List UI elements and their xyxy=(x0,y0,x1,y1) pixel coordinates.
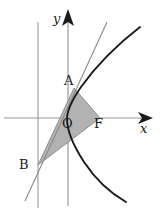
point-label-a: A xyxy=(64,74,73,87)
y-axis-label: y xyxy=(53,12,60,25)
geometry-figure: y x A B O F xyxy=(0,0,165,214)
geometry-canvas xyxy=(0,0,165,214)
x-axis-label: x xyxy=(140,122,147,135)
point-label-b: B xyxy=(19,158,29,171)
point-label-o: O xyxy=(62,117,73,130)
point-label-f: F xyxy=(94,117,103,130)
